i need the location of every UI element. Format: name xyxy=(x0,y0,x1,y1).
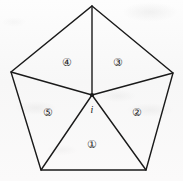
spoke-to-left xyxy=(11,72,92,95)
region-label-2: ② xyxy=(132,107,142,118)
region-label-3: ③ xyxy=(113,57,123,68)
spoke-to-right xyxy=(92,73,173,95)
pentagon-figure: ① ② ③ ④ ⑤ i xyxy=(0,0,183,181)
pentagon-diagram-svg xyxy=(0,0,183,181)
region-label-4: ④ xyxy=(62,57,72,68)
interior-point-label-i: i xyxy=(91,105,94,115)
region-label-5: ⑤ xyxy=(43,107,53,118)
interior-point-dot xyxy=(90,93,94,97)
region-label-1: ① xyxy=(87,139,97,150)
